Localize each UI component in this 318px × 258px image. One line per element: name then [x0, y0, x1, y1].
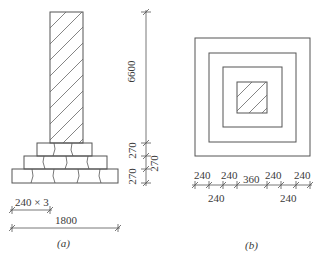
dim-plan-1: 240 [194, 170, 211, 181]
footing-step-bottom [12, 169, 118, 183]
plan-middle-step [209, 53, 296, 142]
dim-base-width: 1800 [55, 215, 77, 226]
footing-step-top [37, 143, 92, 156]
dim-step-1: 270 [127, 142, 138, 159]
dim-plan-column: 360 [243, 174, 260, 185]
dim-column-height: 6600 [126, 61, 137, 83]
dim-plan-6: 240 [280, 193, 297, 204]
dim-plan-7: 240 [294, 170, 311, 181]
footing-plan [192, 38, 313, 189]
drawing-canvas [0, 0, 318, 258]
column-hatch [50, 0, 83, 172]
dim-step-width: 240 × 3 [15, 197, 49, 208]
plan-column [237, 82, 267, 113]
caption-a: (a) [57, 238, 70, 249]
stepped-footing [12, 143, 118, 183]
plan-outer-step [195, 38, 310, 156]
caption-b: (b) [245, 240, 258, 251]
dim-plan-2: 240 [208, 193, 225, 204]
dim-plan-3: 240 [221, 170, 238, 181]
dim-step-2: 270 [149, 155, 160, 172]
plan-top-step [223, 67, 282, 127]
dim-step-3: 270 [127, 168, 138, 185]
dim-plan-5: 240 [265, 170, 282, 181]
